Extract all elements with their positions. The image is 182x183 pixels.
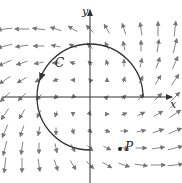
vector-arrow-icon <box>140 59 142 68</box>
vector-arrow-icon <box>1 109 8 120</box>
vector-arrow-icon <box>156 58 160 69</box>
vector-arrow-icon <box>0 44 12 48</box>
vector-arrow-icon <box>33 28 46 30</box>
vector-arrow-icon <box>21 142 23 155</box>
vector-arrow-icon <box>172 57 177 70</box>
vector-arrow-icon <box>51 27 62 31</box>
vector-arrow-icon <box>119 163 130 167</box>
vector-arrow-icon <box>170 110 181 117</box>
vector-arrow-icon <box>70 161 75 170</box>
vector-arrow-icon <box>35 62 44 64</box>
y-axis-label: y <box>82 6 88 17</box>
vector-arrow-icon <box>121 113 126 115</box>
vector-arrow-icon <box>38 159 40 172</box>
vector-arrow-icon <box>55 144 57 153</box>
vector-arrow-icon <box>137 112 144 116</box>
vector-arrow-icon <box>16 45 29 47</box>
vector-arrow-icon <box>0 60 11 65</box>
vector-arrow-icon <box>0 28 12 30</box>
vector-arrow-icon <box>153 129 164 133</box>
x-axis-label: x <box>170 99 176 110</box>
vector-arrow-icon <box>137 130 146 132</box>
vector-arrow-icon <box>52 45 61 47</box>
vector-arrow-icon <box>152 147 165 149</box>
vector-arrow-icon <box>123 77 125 82</box>
vector-arrow-icon <box>140 23 142 36</box>
vector-arrow-icon <box>157 40 159 53</box>
vector-arrow-icon <box>173 39 177 53</box>
vector-arrow-icon <box>3 141 7 155</box>
vector-arrow-icon <box>70 62 75 64</box>
vector-arrow-icon <box>0 76 10 83</box>
vector-arrow-icon <box>2 125 7 138</box>
vector-arrow-icon <box>20 126 24 137</box>
vector-arrow-icon <box>155 76 160 85</box>
vector-arrow-icon <box>55 111 57 116</box>
vector-arrow-icon <box>103 162 112 167</box>
vector-arrow-icon <box>54 160 58 171</box>
vector-arrow-icon <box>103 146 110 150</box>
vector-arrow-icon <box>69 26 78 31</box>
vector-arrow-icon <box>106 60 108 65</box>
plot-canvas <box>0 0 182 183</box>
vector-arrow-icon <box>174 22 176 37</box>
vector-arrow-icon <box>122 24 126 35</box>
vector-arrow-icon <box>53 79 58 81</box>
vector-arrow-icon <box>72 128 74 133</box>
vector-arrow-icon <box>154 111 163 116</box>
vector-arrow-icon <box>123 42 125 51</box>
vector-arrow-icon <box>38 127 40 136</box>
curve-label: C <box>55 57 64 69</box>
vector-field-diagram: y x C P <box>0 0 182 183</box>
point-label: P <box>125 141 133 153</box>
vector-arrow-icon <box>17 61 28 65</box>
vector-arrow-icon <box>168 146 182 150</box>
vector-arrow-icon <box>135 164 148 166</box>
vector-arrow-icon <box>104 25 109 34</box>
vector-arrow-icon <box>169 128 182 133</box>
point-p <box>118 147 122 151</box>
vector-arrow-icon <box>104 130 109 132</box>
vector-arrow-icon <box>19 110 24 119</box>
vector-arrow-icon <box>168 164 182 166</box>
vector-arrow-icon <box>4 158 6 173</box>
vector-arrow-icon <box>171 75 178 86</box>
vector-arrow-icon <box>18 77 27 82</box>
